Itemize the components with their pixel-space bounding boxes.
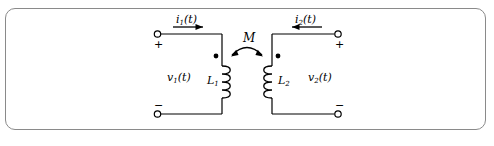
label-voltage-right-arg: (t) [319, 71, 332, 84]
label-current-right-arg: (t) [303, 13, 316, 26]
label-inductor-left: L1 [207, 75, 219, 87]
label-voltage-right: v2(t) [308, 72, 332, 84]
coil-right [264, 66, 272, 98]
figure-canvas: i1(t) i2(t) M + − + − v1(t) v2(t) L1 L2 [0, 0, 494, 146]
label-inductor-right-subscript: 2 [285, 79, 289, 88]
polarity-plus-left: + [154, 39, 163, 50]
polarity-minus-right: − [335, 100, 344, 111]
label-current-right: i2(t) [295, 14, 316, 26]
coil-left [222, 66, 230, 98]
label-inductor-right: L2 [278, 75, 290, 87]
terminal-top-left [154, 31, 160, 37]
label-current-left-arg: (t) [184, 13, 197, 26]
label-inductor-left-subscript: 1 [214, 79, 218, 88]
circuit-schematic [0, 0, 494, 146]
label-voltage-left: v1(t) [167, 72, 191, 84]
polarity-dot-right [276, 54, 281, 59]
label-mutual-inductance-symbol: M [243, 31, 255, 45]
terminal-top-right [335, 31, 341, 37]
label-mutual-inductance: M [243, 32, 255, 44]
polarity-minus-left: − [154, 100, 163, 111]
label-current-left: i1(t) [176, 14, 197, 26]
polarity-plus-right: + [335, 39, 344, 50]
polarity-dot-left [214, 54, 219, 59]
label-voltage-left-arg: (t) [178, 71, 191, 84]
